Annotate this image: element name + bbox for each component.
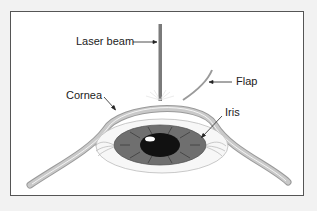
flap: [183, 70, 212, 100]
pupil: [140, 133, 180, 157]
diagram-stage: Laser beam Flap Cornea Iris: [0, 0, 317, 211]
eye-illustration: [0, 0, 317, 211]
label-iris: Iris: [225, 107, 240, 118]
label-cornea: Cornea: [66, 90, 102, 101]
label-laser-beam: Laser beam: [76, 36, 134, 47]
laser-beam: [159, 24, 163, 101]
pupil-highlight: [145, 137, 155, 142]
label-flap: Flap: [236, 76, 257, 87]
